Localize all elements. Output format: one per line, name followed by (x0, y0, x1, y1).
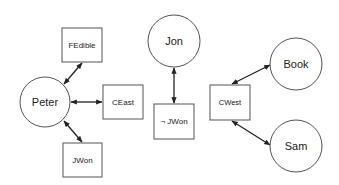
diagram-canvas: Peter FEdible CEast JWon Jon ¬ JWon CWes… (0, 0, 339, 185)
node-label: Sam (285, 140, 308, 152)
node-label: ¬ JWon (160, 117, 187, 126)
node-peter: Peter (20, 77, 70, 127)
node-label: Peter (32, 96, 59, 108)
node-book: Book (270, 38, 322, 90)
node-label: FEdible (68, 41, 96, 50)
node-fedible: FEdible (62, 28, 102, 62)
node-label: CEast (112, 98, 135, 107)
node-ceast: CEast (103, 85, 143, 119)
node-jon: Jon (148, 15, 200, 67)
edge-peter-fedible (64, 63, 82, 84)
node-label: Book (283, 58, 309, 70)
node-label: JWon (72, 156, 92, 165)
edge-peter-jwon (64, 121, 82, 142)
node-jwon: JWon (63, 143, 102, 177)
edge-cwest-book (232, 65, 270, 84)
node-label: Jon (165, 35, 183, 47)
node-not-jwon: ¬ JWon (154, 104, 194, 139)
node-sam: Sam (270, 120, 322, 172)
edge-cwest-sam (232, 121, 270, 145)
node-cwest: CWest (210, 85, 250, 120)
node-label: CWest (219, 98, 242, 107)
